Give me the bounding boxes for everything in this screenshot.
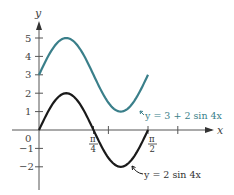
svg-text:1: 1 xyxy=(25,106,31,117)
svg-text:−2: −2 xyxy=(19,161,34,172)
annotation-black: y = 2 sin 4x xyxy=(132,166,202,180)
y-axis-arrow-icon xyxy=(36,21,42,30)
x-tick-label-pi-over-2: π 2 xyxy=(148,134,157,154)
svg-text:5: 5 xyxy=(25,33,31,44)
svg-text:2: 2 xyxy=(150,144,155,154)
sine-chart: x y 5 4 3 2 1 0 −1 −2 π 4 π 2 xyxy=(0,0,234,195)
y-axis-label: y xyxy=(34,7,42,20)
svg-text:4: 4 xyxy=(25,51,31,62)
x-axis-label: x xyxy=(217,124,224,137)
svg-text:y = 2 sin 4x: y = 2 sin 4x xyxy=(143,169,202,180)
annotation-teal: y = 3 + 2 sin 4x xyxy=(140,110,223,121)
svg-text:y = 3 + 2 sin 4x: y = 3 + 2 sin 4x xyxy=(144,110,223,121)
svg-text:4: 4 xyxy=(91,144,96,154)
y-tick-labels: 5 4 3 2 1 0 −1 −2 xyxy=(19,33,34,172)
svg-text:−1: −1 xyxy=(19,143,34,154)
svg-text:π: π xyxy=(149,134,155,144)
svg-text:3: 3 xyxy=(25,69,31,80)
x-axis-arrow-icon xyxy=(205,127,214,133)
svg-text:2: 2 xyxy=(25,88,31,99)
